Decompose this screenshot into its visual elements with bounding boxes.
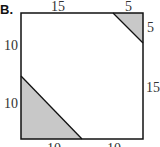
label-top-left: 15: [51, 0, 65, 14]
label-left-lower: 10: [4, 97, 18, 111]
label-left-upper: 10: [4, 39, 18, 53]
label-right-lower: 15: [146, 81, 160, 95]
square-diagram: [0, 0, 160, 147]
label-top-right: 5: [125, 0, 132, 14]
label-bottom-left: 10: [47, 142, 61, 147]
label-bottom-right: 10: [107, 142, 121, 147]
label-right-upper: 5: [147, 21, 154, 35]
